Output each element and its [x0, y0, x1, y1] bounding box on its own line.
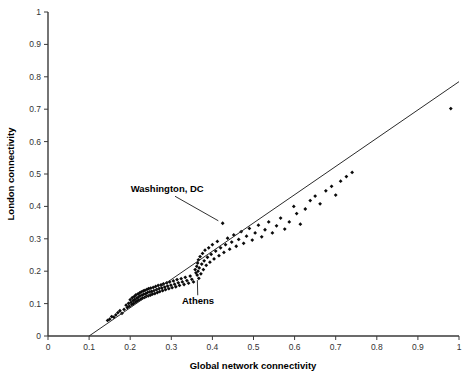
y-axis-title: London connectivity	[5, 127, 16, 221]
data-point	[283, 227, 287, 231]
data-point	[204, 263, 208, 267]
annotations-group: Washington, DCAthens	[131, 183, 219, 306]
data-point	[267, 220, 271, 224]
data-point	[188, 274, 192, 278]
x-tick-label: 0.1	[83, 342, 95, 352]
data-point	[228, 247, 232, 251]
chart-canvas: 00.10.20.30.40.50.60.70.80.91 00.10.20.3…	[0, 0, 473, 378]
data-point	[200, 262, 204, 266]
data-point	[202, 259, 206, 263]
data-point	[449, 107, 453, 111]
x-tick-label: 0	[46, 342, 51, 352]
x-tick-label: 0.8	[371, 342, 383, 352]
data-point	[197, 276, 201, 280]
annotation-label: Athens	[182, 295, 214, 306]
data-point	[350, 170, 354, 174]
data-point	[271, 231, 275, 235]
data-point	[250, 238, 254, 242]
data-point	[308, 199, 312, 203]
annotation-leader-line	[175, 196, 218, 221]
y-tick-label: 1	[36, 7, 41, 17]
data-point	[275, 224, 279, 228]
data-point	[212, 257, 216, 261]
data-point	[344, 175, 348, 179]
data-point	[207, 246, 211, 250]
data-point	[260, 235, 264, 239]
x-tick-label: 0.3	[165, 342, 177, 352]
data-point	[198, 255, 202, 259]
x-tick-label: 0.4	[206, 342, 218, 352]
data-point	[217, 254, 221, 258]
data-point	[279, 216, 283, 220]
x-axis-title: Global network connectivity	[190, 360, 317, 371]
data-point	[245, 234, 249, 238]
data-point	[295, 212, 299, 216]
data-point	[339, 179, 343, 183]
annotation-label: Washington, DC	[131, 183, 204, 194]
y-tick-label: 0.7	[29, 104, 41, 114]
data-point	[318, 202, 322, 206]
data-point	[199, 272, 203, 276]
data-point	[324, 189, 328, 193]
data-point	[201, 268, 205, 272]
data-point	[257, 223, 261, 227]
data-point	[208, 260, 212, 264]
x-tick-label: 0.2	[124, 342, 136, 352]
data-point	[292, 205, 296, 209]
data-point	[221, 221, 225, 225]
y-tick-label: 0.8	[29, 72, 41, 82]
scatter-plot-figure: 00.10.20.30.40.50.60.70.80.91 00.10.20.3…	[0, 0, 473, 378]
x-tick-label: 1	[457, 342, 462, 352]
data-point	[171, 279, 175, 283]
data-point	[234, 244, 238, 248]
y-tick-label: 0.2	[29, 266, 41, 276]
data-point	[175, 278, 179, 282]
data-point	[237, 238, 241, 242]
y-tick-label: 0.3	[29, 234, 41, 244]
data-point	[287, 220, 291, 224]
data-point	[263, 228, 267, 232]
data-point	[242, 241, 246, 245]
data-point	[201, 251, 205, 255]
data-point	[303, 207, 307, 211]
y-tick-label: 0	[36, 331, 41, 341]
data-point	[298, 222, 302, 226]
y-tick-label: 0.9	[29, 39, 41, 49]
x-tick-label: 0.9	[412, 342, 424, 352]
y-tick-label: 0.1	[29, 299, 41, 309]
y-tick-label: 0.5	[29, 169, 41, 179]
data-point	[230, 240, 234, 244]
data-point	[313, 194, 317, 198]
y-tick-label: 0.6	[29, 137, 41, 147]
x-axis-ticks: 00.10.20.30.40.50.60.70.80.91	[46, 336, 462, 352]
data-point	[183, 275, 187, 279]
x-tick-label: 0.7	[330, 342, 342, 352]
data-point	[179, 277, 183, 281]
y-tick-label: 0.4	[29, 201, 41, 211]
data-point	[203, 248, 207, 252]
x-tick-label: 0.6	[289, 342, 301, 352]
data-point	[330, 184, 334, 188]
data-point	[253, 231, 257, 235]
data-point	[334, 193, 338, 197]
data-point	[222, 251, 226, 255]
data-point	[215, 239, 219, 243]
y-axis-ticks: 00.10.20.30.40.50.60.70.80.91	[29, 7, 48, 341]
data-points-group	[106, 107, 453, 323]
x-tick-label: 0.5	[248, 342, 260, 352]
data-point	[211, 243, 215, 247]
trend-line	[89, 82, 459, 336]
